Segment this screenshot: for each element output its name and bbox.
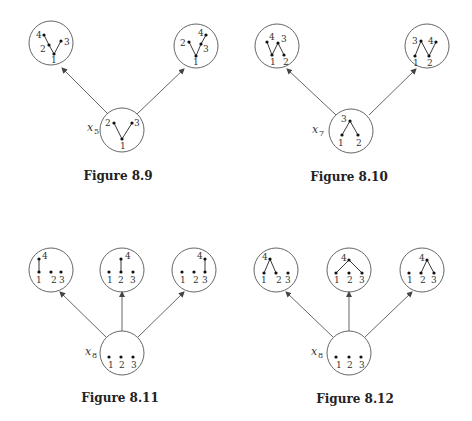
vertex-label: 3 bbox=[131, 360, 137, 370]
figure-caption: Figure 8.12 bbox=[316, 392, 394, 406]
vertex-label: 2 bbox=[283, 57, 289, 67]
edge-arrow bbox=[62, 68, 108, 114]
root-node: 1 2 3 x 7 bbox=[312, 109, 373, 153]
vertex-label: 4 bbox=[197, 251, 203, 261]
root-variable-subscript: 7 bbox=[319, 129, 324, 138]
vertex-dot bbox=[119, 270, 122, 273]
root-node: 1 2 3 x 8 bbox=[311, 331, 371, 375]
vertex-label: 1 bbox=[120, 141, 126, 151]
root-node: 1 2 3 x 8 bbox=[85, 331, 144, 375]
vertex-label: 3 bbox=[202, 275, 208, 285]
child-node-2: 1 2 3 4 bbox=[405, 24, 449, 68]
vertex-label: 2 bbox=[119, 360, 125, 370]
figure-caption: Figure 8.11 bbox=[81, 391, 159, 405]
vertex-label: 4 bbox=[262, 252, 268, 262]
vertex-label: 3 bbox=[281, 34, 287, 44]
edge-arrow bbox=[286, 292, 333, 337]
vertex-label: 1 bbox=[107, 275, 113, 285]
root-variable-subscript: 5 bbox=[94, 127, 99, 136]
vertex-label: 1 bbox=[270, 57, 276, 67]
vertex-label: 4 bbox=[125, 251, 131, 261]
vertex-label: 2 bbox=[180, 38, 186, 48]
vertex-dot bbox=[107, 270, 110, 273]
vertex-label: 1 bbox=[413, 58, 419, 68]
child-node-1: 1 2 3 4 bbox=[29, 21, 73, 65]
vertex-label: 2 bbox=[40, 44, 46, 54]
vertex-label: 4 bbox=[341, 253, 347, 263]
vertex-label: 4 bbox=[428, 36, 434, 46]
root-variable-subscript: 8 bbox=[318, 351, 323, 360]
node-circle bbox=[327, 248, 371, 292]
vertex-dot bbox=[425, 258, 428, 261]
vertex-label: 2 bbox=[51, 275, 57, 285]
root-variable: x bbox=[85, 345, 92, 358]
vertex-label: 1 bbox=[334, 275, 340, 285]
vertex-label: 2 bbox=[118, 275, 124, 285]
figure-caption: Figure 8.9 bbox=[83, 169, 152, 183]
child-node-1: 1 2 3 4 bbox=[255, 24, 299, 68]
root-variable: x bbox=[312, 123, 319, 136]
node-circle bbox=[172, 248, 216, 292]
figure-8-9: 1 2 3 4 1 2 3 4 1 bbox=[29, 21, 218, 183]
vertex-label: 4 bbox=[269, 32, 275, 42]
child-node-2: 1 2 3 4 bbox=[174, 24, 218, 68]
vertex-dot bbox=[49, 270, 52, 273]
vertex-label: 3 bbox=[134, 118, 140, 128]
vertex-label: 3 bbox=[341, 114, 347, 124]
root-node: 1 2 3 x 5 bbox=[87, 108, 144, 152]
vertex-dot bbox=[268, 257, 271, 260]
vertex-label: 4 bbox=[36, 30, 42, 40]
vertex-dot bbox=[37, 270, 40, 273]
vertex-label: 4 bbox=[42, 251, 48, 261]
figure-page: 1 2 3 4 1 2 3 4 1 bbox=[0, 0, 472, 421]
node-circle bbox=[100, 248, 144, 292]
edge-arrow bbox=[137, 69, 184, 114]
vertex-label: 4 bbox=[198, 28, 204, 38]
vertex-dot bbox=[348, 119, 351, 122]
figure-8-10: 1 2 3 4 1 2 3 4 1 bbox=[255, 24, 449, 184]
root-variable: x bbox=[87, 121, 94, 134]
vertex-label: 3 bbox=[59, 275, 65, 285]
vertex-dot bbox=[131, 270, 134, 273]
vertex-dot bbox=[340, 133, 343, 136]
vertex-label: 2 bbox=[427, 58, 433, 68]
figure-8-11: 1 2 3 4 1 2 3 4 1 2 3 bbox=[29, 248, 216, 405]
child-node-3: 1 2 3 4 bbox=[400, 248, 444, 292]
vertex-label: 1 bbox=[407, 275, 413, 285]
node-circle bbox=[329, 109, 373, 153]
vertex-dot bbox=[347, 258, 350, 261]
vertex-label: 3 bbox=[412, 36, 418, 46]
vertex-dot bbox=[112, 121, 115, 124]
edge-arrow bbox=[369, 69, 416, 115]
vertex-dot bbox=[180, 270, 183, 273]
vertex-dot bbox=[192, 270, 195, 273]
vertex-dot bbox=[42, 33, 45, 36]
vertex-dot bbox=[59, 270, 62, 273]
child-node-2: 1 2 3 4 bbox=[327, 248, 371, 292]
node-circle bbox=[29, 248, 73, 292]
vertex-label: 1 bbox=[108, 360, 114, 370]
vertex-label: 3 bbox=[359, 360, 365, 370]
vertex-dot bbox=[37, 257, 40, 260]
vertex-label: 3 bbox=[130, 275, 136, 285]
figure-8-12: 1 2 3 4 1 2 3 4 1 bbox=[254, 248, 444, 406]
vertex-dot bbox=[419, 39, 422, 42]
vertex-label: 2 bbox=[193, 275, 199, 285]
vertex-label: 1 bbox=[261, 275, 267, 285]
vertex-dot bbox=[47, 43, 50, 46]
edge-arrow bbox=[287, 69, 336, 115]
vertex-label: 1 bbox=[336, 360, 342, 370]
vertex-label: 2 bbox=[420, 275, 426, 285]
vertex-dot bbox=[131, 355, 134, 358]
vertex-label: 1 bbox=[36, 275, 42, 285]
vertex-dot bbox=[204, 33, 207, 36]
vertex-label: 2 bbox=[347, 275, 353, 285]
vertex-label: 2 bbox=[105, 118, 111, 128]
vertex-label: 2 bbox=[276, 275, 282, 285]
child-node-3: 1 2 3 4 bbox=[172, 248, 216, 292]
vertex-dot bbox=[334, 355, 337, 358]
vertex-label: 2 bbox=[347, 360, 353, 370]
vertex-label: 3 bbox=[285, 275, 291, 285]
vertex-label: 2 bbox=[356, 138, 362, 148]
vertex-dot bbox=[119, 257, 122, 260]
